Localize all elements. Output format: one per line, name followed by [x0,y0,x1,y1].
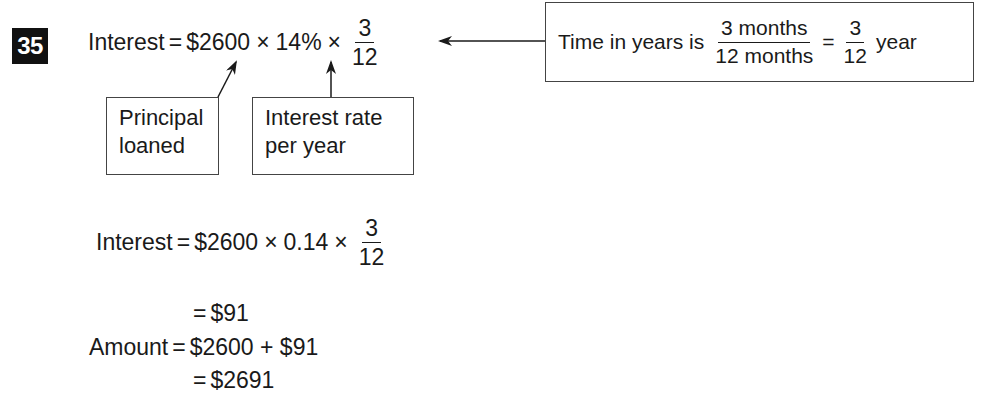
rate-label-line1: Interest rate [265,104,401,132]
principal-value: $2600 [194,231,258,254]
principal-label-line1: Principal [119,104,206,132]
rate-label-box: Interest rate per year [252,97,414,175]
equals-sign: = [177,231,190,254]
step-amount-result: = $2691 [193,369,274,392]
arrow-to-principal [218,62,236,97]
time-note-suffix: year [876,30,917,54]
times-sign: × [334,231,347,254]
time-note-box: Time in years is 3 months 12 months = 3 … [545,2,974,82]
equals-sign: = [172,336,185,359]
step-amount-sum: Amount = $2600 + $91 [89,336,318,359]
step-interest-result: = $91 [193,302,249,325]
years-fraction: 3 12 [841,17,870,66]
fraction-denominator: 12 [356,243,388,269]
rate-label-line2: per year [265,132,401,160]
rate-decimal: 0.14 [284,231,329,254]
interest-label: Interest [96,231,173,254]
time-fraction: 3 12 [356,216,388,269]
months-fraction: 3 months 12 months [712,17,816,66]
equals-sign: = [193,369,206,392]
principal-label-line2: loaned [119,132,206,160]
fraction-numerator: 3 [362,216,381,243]
fraction-denominator: 12 months [712,43,816,67]
principal-label-box: Principal loaned [106,97,219,175]
fraction-numerator: 3 months [718,17,810,42]
time-note-prefix: Time in years is [558,30,704,54]
interest-result: $91 [210,302,248,325]
times-sign: × [264,231,277,254]
fraction-denominator: 12 [841,43,870,67]
equals-sign: = [822,30,834,54]
equals-sign: = [193,302,206,325]
amount-expression: $2600 + $91 [190,336,319,359]
amount-result: $2691 [210,369,274,392]
fraction-numerator: 3 [846,17,864,42]
amount-label: Amount [89,336,168,359]
step-interest-decimal: Interest = $2600 × 0.14 × 3 12 [96,216,389,269]
